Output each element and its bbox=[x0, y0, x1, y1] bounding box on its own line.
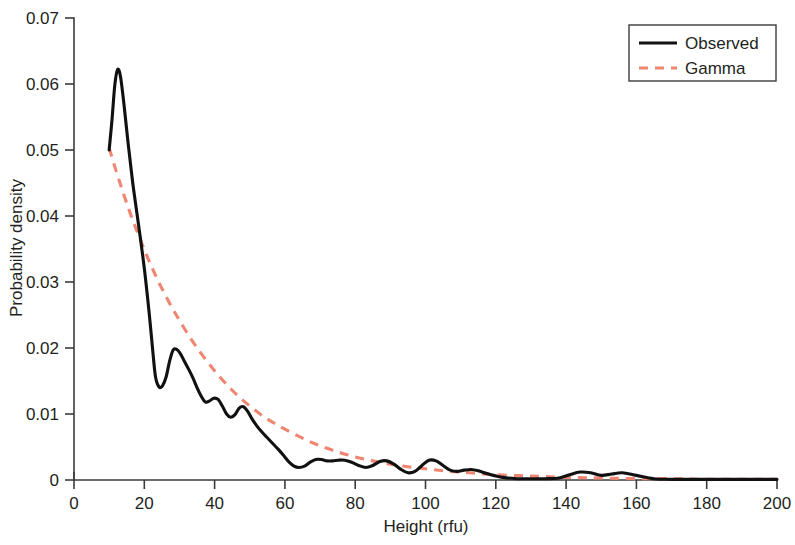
legend-label-gamma: Gamma bbox=[685, 59, 746, 78]
plot-frame bbox=[74, 18, 777, 480]
y-axis-ticks: 00.010.020.030.040.050.060.07 bbox=[26, 9, 74, 490]
data-series-layer bbox=[109, 69, 777, 479]
series-line-gamma bbox=[109, 148, 777, 479]
x-tick-label: 200 bbox=[763, 494, 791, 513]
x-tick-label: 20 bbox=[135, 494, 154, 513]
y-tick-label: 0.07 bbox=[26, 9, 59, 28]
series-line-observed bbox=[109, 69, 777, 479]
y-tick-label: 0.04 bbox=[26, 207, 59, 226]
y-tick-label: 0.03 bbox=[26, 273, 59, 292]
x-tick-label: 0 bbox=[69, 494, 78, 513]
x-tick-label: 180 bbox=[693, 494, 721, 513]
y-tick-label: 0.05 bbox=[26, 141, 59, 160]
chart-legend: ObservedGamma bbox=[629, 25, 776, 81]
y-tick-label: 0.01 bbox=[26, 405, 59, 424]
y-tick-label: 0.02 bbox=[26, 339, 59, 358]
y-tick-label: 0 bbox=[50, 471, 59, 490]
x-tick-label: 100 bbox=[411, 494, 439, 513]
x-tick-label: 60 bbox=[275, 494, 294, 513]
y-axis-label: Probability density bbox=[7, 179, 26, 317]
legend-label-observed: Observed bbox=[685, 34, 759, 53]
x-tick-label: 140 bbox=[552, 494, 580, 513]
x-axis-label: Height (rfu) bbox=[383, 517, 468, 536]
x-tick-label: 80 bbox=[346, 494, 365, 513]
x-tick-label: 120 bbox=[482, 494, 510, 513]
y-tick-label: 0.06 bbox=[26, 75, 59, 94]
x-tick-label: 40 bbox=[205, 494, 224, 513]
x-tick-label: 160 bbox=[622, 494, 650, 513]
probability-density-chart: 00.010.020.030.040.050.060.07 0204060801… bbox=[0, 0, 795, 545]
